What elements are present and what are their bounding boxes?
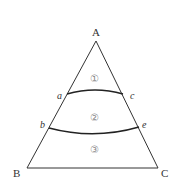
arc-b-e xyxy=(49,127,139,134)
region-label-2: ② xyxy=(90,112,99,123)
triangle-diagram: A B C a c b e ① ② ③ xyxy=(0,0,178,189)
point-label-a: a xyxy=(57,90,62,101)
point-label-b: b xyxy=(40,119,45,130)
vertex-label-a: A xyxy=(92,26,100,38)
region-label-3: ③ xyxy=(90,144,99,155)
vertex-label-c: C xyxy=(161,167,168,179)
point-label-c: c xyxy=(130,90,135,101)
region-label-1: ① xyxy=(90,73,99,84)
arc-a-c xyxy=(67,90,123,94)
vertex-label-b: B xyxy=(13,167,20,179)
point-label-e: e xyxy=(142,119,147,130)
